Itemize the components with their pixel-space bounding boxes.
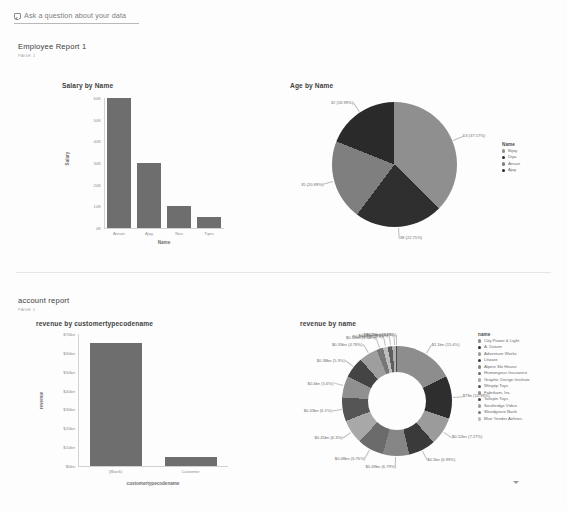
- chart-title-revenue-type: revenue by customertypecodename: [36, 320, 271, 327]
- visual-revenue-by-customertypecodename[interactable]: revenue by customertypecodename $0bn$10b…: [36, 320, 271, 485]
- y-axis-tick: $70bn: [63, 332, 75, 337]
- slice-data-label: 35 (20.89%): [301, 182, 323, 187]
- legend-swatch-icon: [478, 385, 481, 388]
- qna-search-box[interactable]: Ask a question about your data: [14, 10, 139, 24]
- legend-item[interactable]: Fabrikam, Inc.: [478, 391, 530, 395]
- leader-line: [453, 136, 463, 141]
- leader-line: [398, 228, 400, 239]
- visual-age-by-name[interactable]: Age by Name 63 (37.57%)38 (22.75%)35 (20…: [290, 82, 555, 242]
- y-axis-tick: $0bn: [66, 464, 75, 469]
- legend-item[interactable]: A. Datum: [478, 345, 530, 349]
- legend-label: Tailspin Toys: [484, 397, 508, 401]
- leader-line: [342, 432, 351, 438]
- legend-revenue-by-name[interactable]: name City Power & LightA. DatumAdventure…: [478, 332, 530, 423]
- bar[interactable]: [137, 163, 161, 228]
- y-axis-tick: 50K: [94, 117, 101, 122]
- legend-label: A. Datum: [484, 345, 502, 349]
- legend-item[interactable]: Humongous Insurance: [478, 371, 530, 375]
- y-axis-tick: $20bn: [63, 426, 75, 431]
- legend-swatch-icon: [478, 339, 481, 342]
- legend-item[interactable]: Tailspin Toys: [478, 397, 530, 401]
- bar[interactable]: [197, 217, 221, 228]
- legend-swatch-icon: [502, 162, 505, 165]
- legend-item[interactable]: Ansari: [502, 162, 520, 166]
- legend-label: Graphic Design Institute: [484, 378, 530, 382]
- pie-chart[interactable]: [332, 102, 457, 227]
- legend-swatch-icon: [478, 359, 481, 362]
- legend-item[interactable]: Graphic Design Institute: [478, 378, 530, 382]
- legend-label: Southridge Video: [484, 404, 517, 408]
- y-axis-line: [78, 334, 79, 466]
- leader-line: [332, 409, 342, 412]
- legend-label: Adventure Works: [484, 352, 517, 356]
- legend-label: Ansari: [508, 162, 520, 166]
- legend-item[interactable]: City Power & Light: [478, 339, 530, 343]
- legend-item[interactable]: Diya: [502, 155, 520, 159]
- y-axis-tick: $60bn: [63, 350, 75, 355]
- legend-title: name: [478, 332, 530, 337]
- legend-label: Diya: [508, 155, 517, 159]
- y-axis-tick: $50bn: [63, 369, 75, 374]
- plot-area-revenue-name: $1.1bn (15.4%)$78n (10.99%)$0.52bn (7.27…: [342, 346, 452, 456]
- x-axis-tick: Ajay: [145, 231, 153, 236]
- leader-line: [345, 360, 354, 367]
- plot-area-revenue-type: $0bn$10bn$20bn$30bn$40bn$50bn$60bn$70bn(…: [78, 334, 228, 466]
- legend-item[interactable]: Southridge Video: [478, 404, 530, 408]
- slice-data-label: 63 (37.57%): [463, 133, 485, 138]
- legend-label: Woodgrove Bank: [484, 410, 517, 414]
- legend-label: Litware: [484, 358, 498, 362]
- legend-label: Fabrikam, Inc.: [484, 391, 511, 395]
- legend-swatch-icon: [478, 352, 481, 355]
- slice-data-label: $0.03bn (0.29%): [366, 332, 396, 337]
- slice-data-label: $0.43bn (6.1%): [304, 408, 332, 413]
- legend-item[interactable]: Woodgrove Bank: [478, 410, 530, 414]
- report-header-account: account report PAGE 1: [18, 296, 69, 312]
- legend-swatch-icon: [478, 372, 481, 375]
- legend-item[interactable]: Blue Yonder Airlines: [478, 417, 530, 421]
- legend-item[interactable]: Litware: [478, 358, 530, 362]
- chart-title-salary: Salary by Name: [62, 82, 252, 89]
- legend-label: Bijoy: [508, 149, 517, 153]
- legend-label: Wingtip Toys: [484, 384, 508, 388]
- legend-swatch-icon: [478, 378, 481, 381]
- leader-line: [396, 335, 397, 345]
- bar[interactable]: [90, 343, 142, 466]
- legend-item[interactable]: Alpine Ski House: [478, 365, 530, 369]
- legend-swatch-icon: [478, 398, 481, 401]
- x-axis-tick: Ansari: [113, 231, 125, 236]
- y-axis-tick: 40K: [94, 139, 101, 144]
- section-divider: [16, 272, 551, 273]
- leader-line: [362, 344, 368, 353]
- legend-item[interactable]: Wingtip Toys: [478, 384, 530, 388]
- legend-swatch-icon: [478, 404, 481, 407]
- y-axis-tick: 0K: [96, 226, 101, 231]
- y-axis-tick: 30K: [94, 161, 101, 166]
- leader-line: [364, 450, 370, 459]
- slice-data-label: $0.45bn (6.3%): [314, 435, 342, 440]
- legend-age-by-name[interactable]: Name BijoyDiyaAnsariAjay: [502, 142, 520, 175]
- legend-item[interactable]: Ajay: [502, 168, 520, 172]
- chevron-down-icon[interactable]: [513, 481, 519, 484]
- slice-data-label: $0.52bn (7.27%): [452, 434, 482, 439]
- legend-swatch-icon: [478, 365, 481, 368]
- legend-item[interactable]: Bijoy: [502, 149, 520, 153]
- legend-label: Ajay: [508, 168, 516, 172]
- visual-salary-by-name[interactable]: Salary by Name 0K10K20K30K40K50K60KAnsar…: [62, 82, 252, 242]
- legend-label: City Power & Light: [484, 339, 519, 343]
- slice-data-label: $0.4bn (5.6%): [308, 381, 334, 386]
- bar[interactable]: [167, 206, 191, 228]
- leader-line: [383, 336, 386, 346]
- report-header-employee: Employee Report 1 PAGE 1: [18, 42, 86, 58]
- visual-revenue-by-name[interactable]: revenue by name $1.1bn (15.4%)$78n (10.9…: [300, 320, 565, 490]
- x-axis-tick: Nav: [175, 231, 182, 236]
- leader-line: [443, 432, 452, 438]
- leader-line: [323, 181, 333, 185]
- slice-data-label: $1.1bn (15.4%): [432, 342, 460, 347]
- bar[interactable]: [165, 457, 217, 466]
- report-title: Employee Report 1: [18, 42, 86, 51]
- legend-swatch-icon: [478, 346, 481, 349]
- x-axis-tick: Customer: [181, 469, 199, 474]
- x-axis-tick: Tipru: [204, 231, 213, 236]
- legend-item[interactable]: Adventure Works: [478, 352, 530, 356]
- bar[interactable]: [107, 98, 131, 228]
